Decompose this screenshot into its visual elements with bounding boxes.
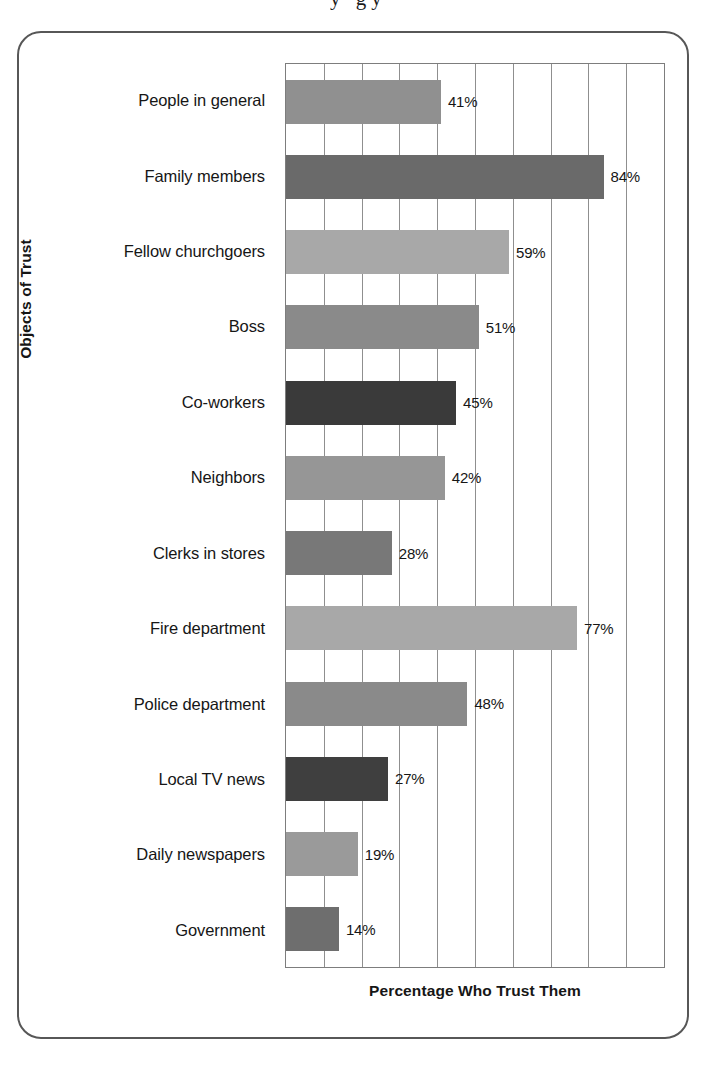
bar-row: 27% (286, 741, 664, 816)
bar-value-label: 28% (392, 545, 428, 562)
category-label: People in general (55, 63, 277, 138)
bar-row: 14% (286, 892, 664, 967)
bar (286, 456, 445, 500)
bar-row: 48% (286, 666, 664, 741)
bar (286, 531, 392, 575)
bar-value-label: 41% (441, 93, 477, 110)
bar-value-label: 59% (509, 244, 545, 261)
category-label: Fellow churchgoers (55, 214, 277, 289)
category-label: Family members (55, 138, 277, 213)
bar (286, 230, 509, 274)
bar (286, 832, 358, 876)
bar-value-label: 84% (604, 168, 640, 185)
bar-value-label: 19% (358, 846, 394, 863)
category-label: Fire department (55, 591, 277, 666)
y-axis-title: Objects of Trust (13, 179, 39, 419)
bar-row: 28% (286, 516, 664, 591)
bar-row: 59% (286, 215, 664, 290)
bar-value-label: 14% (339, 921, 375, 938)
bar-row: 77% (286, 591, 664, 666)
bar (286, 757, 388, 801)
bar-value-label: 51% (479, 319, 515, 336)
category-label: Police department (55, 666, 277, 741)
category-label: Co-workers (55, 365, 277, 440)
bar (286, 155, 604, 199)
bar-value-label: 27% (388, 770, 424, 787)
bar (286, 80, 441, 124)
category-label: Daily newspapers (55, 817, 277, 892)
category-label: Clerks in stores (55, 516, 277, 591)
plot-area: 41%84%59%51%45%42%28%77%48%27%19%14% (285, 63, 665, 968)
bar-row: 84% (286, 139, 664, 214)
bar-row: 41% (286, 64, 664, 139)
bar (286, 606, 577, 650)
category-label: Local TV news (55, 742, 277, 817)
bar-value-label: 42% (445, 469, 481, 486)
category-label: Government (55, 893, 277, 968)
bar (286, 305, 479, 349)
x-axis-title: Percentage Who Trust Them (285, 982, 665, 1000)
category-axis-labels: People in generalFamily membersFellow ch… (55, 63, 277, 968)
bar-row: 51% (286, 290, 664, 365)
bar-series: 41%84%59%51%45%42%28%77%48%27%19%14% (286, 64, 664, 967)
page-bleed-text: y gy (330, 0, 690, 12)
bar-row: 42% (286, 440, 664, 515)
bar (286, 682, 467, 726)
bar-row: 19% (286, 817, 664, 892)
bar-value-label: 48% (467, 695, 503, 712)
bar-row: 45% (286, 365, 664, 440)
bar-value-label: 45% (456, 394, 492, 411)
figure-page: y gy Objects of Trust People in generalF… (0, 0, 708, 1071)
category-label: Boss (55, 289, 277, 364)
bar (286, 907, 339, 951)
category-label: Neighbors (55, 440, 277, 515)
bar (286, 381, 456, 425)
bar-value-label: 77% (577, 620, 613, 637)
